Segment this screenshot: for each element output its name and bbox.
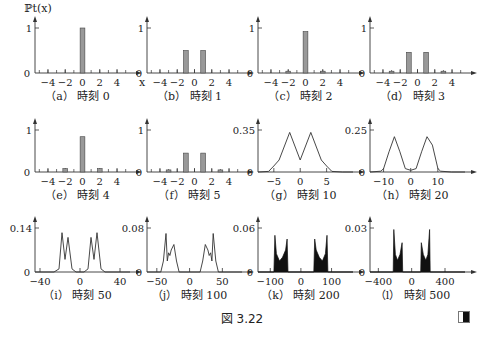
oscillation-area: [370, 230, 465, 273]
x-tick-label: −10: [373, 176, 394, 187]
x-tick-label: 0: [191, 77, 197, 88]
x-tick-label: 0: [191, 176, 197, 187]
y-axis-arrow-icon: [33, 216, 37, 222]
x-tick-label: 0: [298, 276, 304, 287]
x-tick-label: 100: [322, 276, 341, 287]
bar: [218, 170, 223, 172]
x-tick-label: −2: [58, 77, 73, 88]
y-tick-label: 0.35: [233, 125, 255, 136]
x-tick-label: 2: [209, 77, 215, 88]
panel-caption: （g） 時刻 10: [264, 188, 336, 202]
x-tick-label: −4: [264, 77, 279, 88]
y-axis-arrow-icon: [145, 216, 149, 222]
y-tick-label: 0: [359, 167, 365, 178]
y-tick-label: 0: [24, 167, 30, 178]
x-tick-label: 4: [114, 77, 120, 88]
panel-caption: （f） 時刻 5: [158, 188, 220, 202]
bar: [97, 169, 102, 172]
y-tick-label: 0.14: [10, 223, 32, 234]
panel-caption: （b） 時刻 1: [157, 89, 222, 103]
y-tick-label: 1: [26, 23, 32, 34]
x-tick-label: −5: [266, 176, 281, 187]
x-tick-label: 0: [79, 77, 85, 88]
x-tick-label: −400: [365, 276, 392, 287]
bar: [441, 71, 446, 73]
distribution-line: [370, 137, 465, 172]
x-tick-label: −4: [153, 77, 168, 88]
x-axis-title: x: [139, 76, 146, 89]
x-tick-label: 0: [408, 276, 414, 287]
distribution-line: [258, 132, 353, 172]
x-tick-label: −2: [393, 77, 408, 88]
distribution-line: [35, 233, 130, 272]
bar: [183, 153, 188, 172]
bar: [183, 51, 188, 74]
x-tick-label: 2: [97, 77, 103, 88]
y-tick-label: 0.08: [122, 223, 144, 234]
distribution-line: [147, 234, 242, 273]
y-tick-label: 0.06: [233, 223, 255, 234]
y-axis-arrow-icon: [368, 216, 372, 222]
y-tick-label: 0: [247, 167, 253, 178]
figure-canvas: 10−4−2024（a） 時刻 010−4−2024（b） 時刻 110−4−2…: [0, 0, 484, 339]
x-tick-label: 0: [414, 77, 420, 88]
x-tick-label: −100: [257, 276, 284, 287]
bar: [80, 137, 85, 172]
x-tick-label: 5: [323, 176, 329, 187]
panel-caption: （k） 時刻 200: [261, 288, 340, 302]
panel-h: 0.250−10010（h） 時刻 20: [345, 118, 477, 202]
y-axis-title: ℙt(x): [24, 2, 51, 15]
bar: [201, 51, 206, 74]
y-tick-label: 0: [247, 267, 253, 278]
bar: [303, 32, 308, 73]
panel-a: 10−4−2024（a） 時刻 0: [24, 16, 142, 103]
y-axis-arrow-icon: [33, 16, 37, 22]
x-tick-label: 40: [114, 276, 127, 287]
y-tick-label: 1: [361, 23, 367, 34]
x-tick-label: 0: [302, 77, 308, 88]
y-tick-label: 0: [136, 167, 142, 178]
y-tick-label: 0.25: [345, 125, 367, 136]
y-axis-arrow-icon: [256, 216, 260, 222]
x-tick-label: 0: [408, 176, 414, 187]
x-tick-label: 2: [432, 77, 438, 88]
y-tick-label: 0.03: [345, 223, 367, 234]
panel-l: 0.030−4000400（l） 時刻 500: [345, 216, 477, 302]
x-tick-label: −4: [153, 176, 168, 187]
panel-caption: （a） 時刻 0: [45, 89, 110, 103]
bar: [424, 52, 429, 73]
x-tick-label: 400: [435, 276, 454, 287]
oscillation-area: [258, 235, 353, 272]
y-axis-arrow-icon: [145, 118, 149, 124]
x-tick-label: 4: [337, 77, 343, 88]
y-tick-label: 0: [247, 68, 253, 79]
x-tick-label: −2: [281, 77, 296, 88]
x-tick-label: 0: [297, 176, 303, 187]
x-tick-label: 2: [320, 77, 326, 88]
panel-caption: （i） 時刻 50: [43, 288, 112, 302]
y-axis-arrow-icon: [33, 118, 37, 124]
panel-caption: （h） 時刻 20: [376, 188, 448, 202]
panel-b: 10−4−2024（b） 時刻 1: [136, 16, 254, 103]
bar: [320, 71, 325, 73]
bar: [166, 170, 171, 172]
panel-caption: （l） 時刻 500: [375, 288, 451, 302]
end-of-proof-icon: [458, 311, 470, 323]
x-tick-label: −2: [170, 77, 185, 88]
x-tick-label: 0: [79, 176, 85, 187]
y-axis-arrow-icon: [256, 118, 260, 124]
y-tick-label: 1: [249, 23, 255, 34]
y-tick-label: 0: [24, 68, 30, 79]
y-axis-arrow-icon: [368, 16, 372, 22]
y-axis-arrow-icon: [256, 16, 260, 22]
x-tick-label: −40: [29, 276, 50, 287]
panel-caption: （j） 時刻 100: [152, 288, 227, 302]
bar: [406, 52, 411, 73]
panel-caption: （c） 時刻 2: [268, 89, 332, 103]
bar: [201, 153, 206, 172]
x-tick-label: 4: [114, 176, 120, 187]
y-axis-arrow-icon: [145, 16, 149, 22]
x-tick-label: −4: [41, 176, 56, 187]
y-tick-label: 0: [359, 68, 365, 79]
panel-caption: （d） 時刻 3: [380, 89, 445, 103]
